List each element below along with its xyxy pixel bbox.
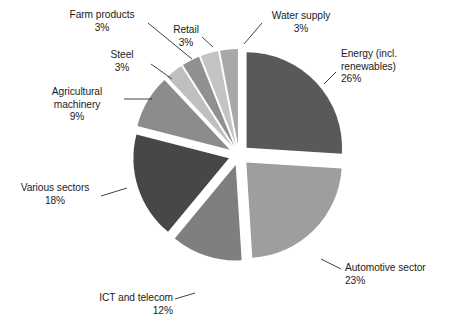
- slice-label-retail: Retail 3%: [166, 24, 206, 49]
- leader-line-automotive: [321, 259, 341, 269]
- slice-label-various-sectors-line1: Various sectors: [10, 182, 100, 195]
- leader-line-water-supply: [244, 23, 262, 44]
- slice-label-automotive-percent: 23%: [345, 275, 451, 288]
- slice-label-energy-percent: 26%: [341, 73, 449, 86]
- slice-label-energy-line1: Energy (incl.: [341, 48, 449, 61]
- slice-label-farm-products-line1: Farm products: [56, 9, 148, 22]
- slice-label-ict-telecom: ICT and telecom 12%: [60, 292, 173, 317]
- slice-label-steel: Steel 3%: [96, 49, 148, 74]
- slice-label-automotive-line1: Automotive sector: [345, 262, 451, 275]
- slice-label-ict-telecom-line1: ICT and telecom: [60, 292, 173, 305]
- slice-label-farm-products: Farm products 3%: [56, 9, 148, 34]
- slice-label-retail-line1: Retail: [166, 24, 206, 37]
- slice-label-steel-percent: 3%: [96, 62, 148, 75]
- leader-line-ict-telecom: [175, 293, 195, 299]
- leader-line-various-sectors: [101, 188, 127, 196]
- slice-label-water-supply-percent: 3%: [262, 23, 340, 36]
- slice-label-agricultural-machinery: Agricultural machinery 9%: [31, 86, 123, 124]
- slice-label-automotive: Automotive sector 23%: [345, 262, 451, 287]
- slice-label-water-supply-line1: Water supply: [262, 10, 340, 23]
- pie-slice-automotive[interactable]: [246, 162, 341, 257]
- slice-label-steel-line1: Steel: [96, 49, 148, 62]
- leader-line-energy: [324, 72, 336, 84]
- slice-label-energy-line2: renewables): [341, 61, 449, 74]
- slice-label-retail-percent: 3%: [166, 37, 206, 50]
- slice-label-water-supply: Water supply 3%: [262, 10, 340, 35]
- slice-label-agricultural-machinery-percent: 9%: [31, 111, 123, 124]
- leader-line-steel: [151, 64, 172, 79]
- slice-label-ict-telecom-percent: 12%: [60, 305, 173, 318]
- pie-chart: Energy (incl. renewables) 26% Automotive…: [0, 0, 453, 324]
- slice-label-farm-products-percent: 3%: [56, 22, 148, 35]
- slice-label-agricultural-machinery-line2: machinery: [31, 99, 123, 112]
- slice-label-energy: Energy (incl. renewables) 26%: [341, 48, 449, 86]
- slice-label-agricultural-machinery-line1: Agricultural: [31, 86, 123, 99]
- slice-label-various-sectors: Various sectors 18%: [10, 182, 100, 207]
- slice-label-various-sectors-percent: 18%: [10, 195, 100, 208]
- pie-slice-energy[interactable]: [247, 52, 343, 154]
